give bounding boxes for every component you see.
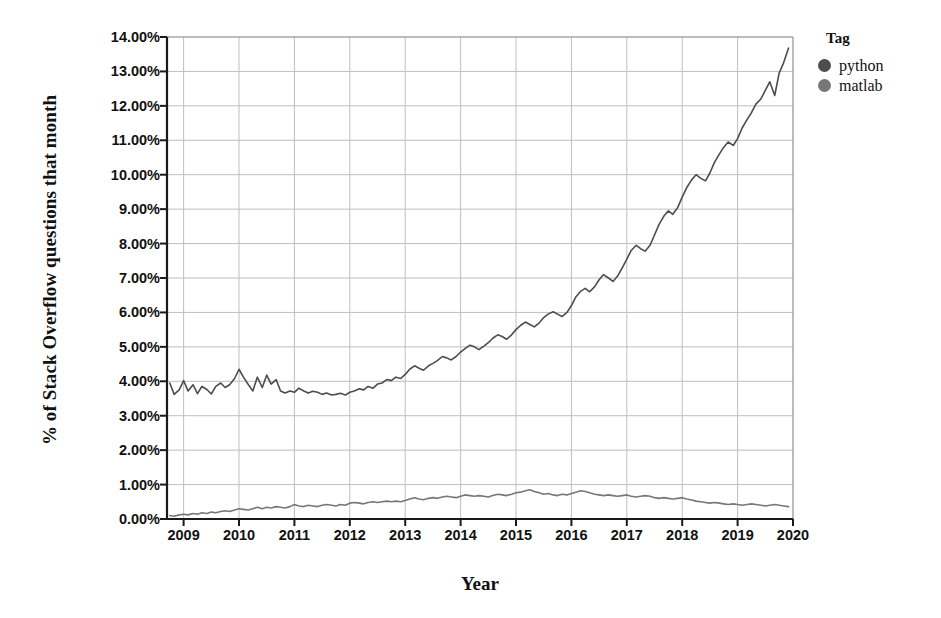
plot-area xyxy=(0,0,941,618)
x-axis-tick-label: 2010 xyxy=(223,527,255,543)
legend-items: pythonmatlab xyxy=(818,56,933,95)
x-axis-tick-label: 2012 xyxy=(334,527,366,543)
x-axis-tick-labels: 2009201020112012201320142015201620172018… xyxy=(0,527,941,557)
legend-swatch-python-icon xyxy=(818,59,831,72)
x-axis-tick-label: 2020 xyxy=(777,527,809,543)
legend-item-matlab[interactable]: matlab xyxy=(818,76,933,95)
chart-figure: % of Stack Overflow questions that month… xyxy=(0,0,941,618)
series-line-matlab xyxy=(170,490,789,517)
x-axis-tick-label: 2014 xyxy=(444,527,476,543)
legend-label: matlab xyxy=(839,77,883,95)
x-axis-tick-label: 2013 xyxy=(389,527,421,543)
x-axis-tick-label: 2009 xyxy=(167,527,199,543)
series-line-python xyxy=(170,48,789,395)
legend-item-python[interactable]: python xyxy=(818,56,933,75)
x-axis-tick-label: 2018 xyxy=(666,527,698,543)
x-axis-tick-label: 2015 xyxy=(500,527,532,543)
x-axis-title: Year xyxy=(167,573,793,595)
x-axis-tick-label: 2019 xyxy=(721,527,753,543)
legend: Tag pythonmatlab xyxy=(818,30,933,96)
legend-swatch-matlab-icon xyxy=(818,79,831,92)
x-axis-tick-label: 2017 xyxy=(611,527,643,543)
x-axis-tick-label: 2011 xyxy=(279,527,310,543)
legend-title: Tag xyxy=(818,30,933,47)
legend-label: python xyxy=(839,57,883,75)
x-axis-tick-label: 2016 xyxy=(555,527,587,543)
